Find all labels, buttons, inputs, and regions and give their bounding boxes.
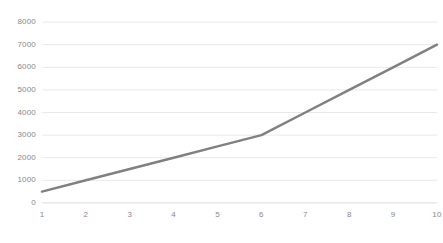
y-tick-7000: 7000 (2, 40, 36, 49)
x-tick-1: 1 (30, 210, 54, 219)
x-tick-6: 6 (249, 210, 273, 219)
x-tick-8: 8 (337, 210, 361, 219)
line-chart: 010002000300040005000600070008000 123456… (0, 0, 443, 243)
x-tick-10: 10 (425, 210, 443, 219)
x-tick-5: 5 (206, 210, 230, 219)
chart-plot-area (0, 0, 443, 243)
y-tick-8000: 8000 (2, 17, 36, 26)
y-tick-4000: 4000 (2, 108, 36, 117)
x-tick-3: 3 (118, 210, 142, 219)
x-tick-7: 7 (293, 210, 317, 219)
data-series-line (42, 45, 437, 192)
y-tick-2000: 2000 (2, 153, 36, 162)
y-tick-5000: 5000 (2, 85, 36, 94)
x-tick-2: 2 (74, 210, 98, 219)
y-tick-6000: 6000 (2, 62, 36, 71)
y-tick-0: 0 (2, 198, 36, 207)
y-tick-3000: 3000 (2, 130, 36, 139)
y-tick-1000: 1000 (2, 175, 36, 184)
x-tick-9: 9 (381, 210, 405, 219)
x-tick-4: 4 (162, 210, 186, 219)
